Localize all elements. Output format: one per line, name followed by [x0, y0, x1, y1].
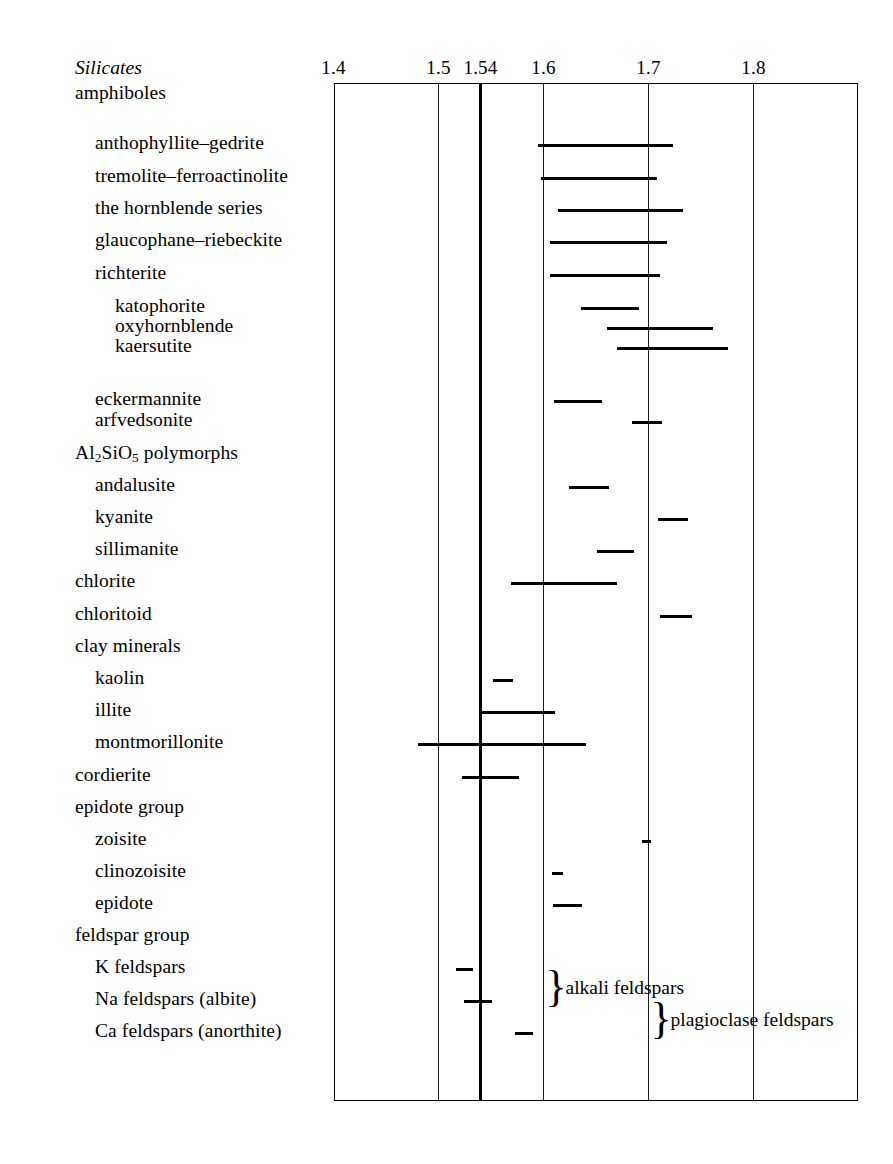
range-bar: [558, 209, 683, 212]
range-bar: [481, 711, 556, 714]
row-label-illite: illite: [95, 700, 131, 720]
range-bar: [456, 968, 473, 971]
row-label-the-hornblende-series: the hornblende series: [95, 198, 263, 218]
axis-tick-label: 1.7: [636, 58, 660, 77]
brace-label-plagioclase-feldspars: plagioclase feldspars: [671, 1010, 834, 1030]
row-label-sillimanite: sillimanite: [95, 539, 178, 559]
range-bar: [660, 615, 692, 618]
row-label-montmorillonite: montmorillonite: [95, 732, 223, 752]
row-label-eckermannite: eckermannite: [95, 389, 201, 409]
row-label-kaersutite: kaersutite: [115, 336, 192, 356]
row-label-chlorite: chlorite: [75, 571, 135, 591]
brace-alkali-feldspars: }: [546, 965, 567, 1009]
range-bar: [632, 421, 662, 424]
range-bar: [493, 679, 513, 682]
range-bar: [462, 776, 520, 779]
row-label-richterite: richterite: [95, 263, 166, 283]
row-label-clay-minerals: clay minerals: [75, 636, 181, 656]
row-label-zoisite: zoisite: [95, 829, 147, 849]
range-bar: [541, 177, 657, 180]
gridline-1-54: [479, 83, 482, 1101]
gridline-1-7: [648, 83, 650, 1101]
range-bar: [464, 1000, 492, 1003]
row-label-clinozoisite: clinozoisite: [95, 861, 186, 881]
row-label-na-feldspars-albite: Na feldspars (albite): [95, 989, 256, 1009]
range-bar: [642, 840, 650, 843]
row-label-al2sio5-polymorphs: Al2SiO5 polymorphs: [75, 443, 238, 468]
row-label-chloritoid: chloritoid: [75, 604, 152, 624]
range-bar: [581, 307, 639, 310]
row-label-kaolin: kaolin: [95, 668, 144, 688]
row-label-epidote: epidote: [95, 893, 153, 913]
range-bar: [569, 486, 609, 489]
range-bar: [550, 274, 660, 277]
axis-tick-label: 1.6: [531, 58, 555, 77]
range-bar: [550, 241, 668, 244]
row-label-silicates: Silicates: [75, 58, 142, 78]
axis-tick-label: 1.5: [426, 58, 450, 77]
row-label-cordierite: cordierite: [75, 765, 151, 785]
range-bar: [617, 347, 728, 350]
gridline-1-6: [543, 83, 545, 1101]
range-bar: [554, 400, 602, 403]
row-label-glaucophane-riebeckite: glaucophane–riebeckite: [95, 230, 282, 250]
row-label-oxyhornblende: oxyhornblende: [115, 316, 233, 336]
range-bar: [515, 1032, 533, 1035]
row-label-epidote-group: epidote group: [75, 797, 184, 817]
range-bar: [553, 904, 582, 907]
row-label-andalusite: andalusite: [95, 475, 175, 495]
axis-tick-label: 1.4: [321, 58, 345, 77]
row-label-feldspar-group: feldspar group: [75, 925, 190, 945]
row-label-ca-feldspars-anorthite: Ca feldspars (anorthite): [95, 1021, 282, 1041]
gridline-1-5: [438, 83, 440, 1101]
refractive-index-chart: 1.41.51.541.61.71.8 Silicatesamphibolesa…: [0, 0, 893, 1164]
range-bar: [658, 518, 688, 521]
row-label-kyanite: kyanite: [95, 507, 153, 527]
range-bar: [552, 872, 564, 875]
range-bar: [607, 327, 713, 330]
row-label-arfvedsonite: arfvedsonite: [95, 410, 193, 430]
range-bar: [597, 550, 634, 553]
gridline-1-8: [753, 83, 755, 1101]
row-label-k-feldspars: K feldspars: [95, 957, 185, 977]
range-bar: [538, 144, 672, 147]
row-label-amphiboles: amphiboles: [75, 83, 166, 103]
brace-plagioclase-feldspars: }: [651, 997, 672, 1041]
row-label-anthophyllite-gedrite: anthophyllite–gedrite: [95, 133, 264, 153]
axis-tick-label: 1.8: [741, 58, 765, 77]
range-bar: [418, 743, 586, 746]
row-label-tremolite-ferroactinolite: tremolite–ferroactinolite: [95, 166, 288, 186]
row-label-katophorite: katophorite: [115, 296, 205, 316]
plot-frame: [334, 83, 859, 1101]
axis-tick-label: 1.54: [463, 58, 497, 77]
range-bar: [511, 582, 617, 585]
